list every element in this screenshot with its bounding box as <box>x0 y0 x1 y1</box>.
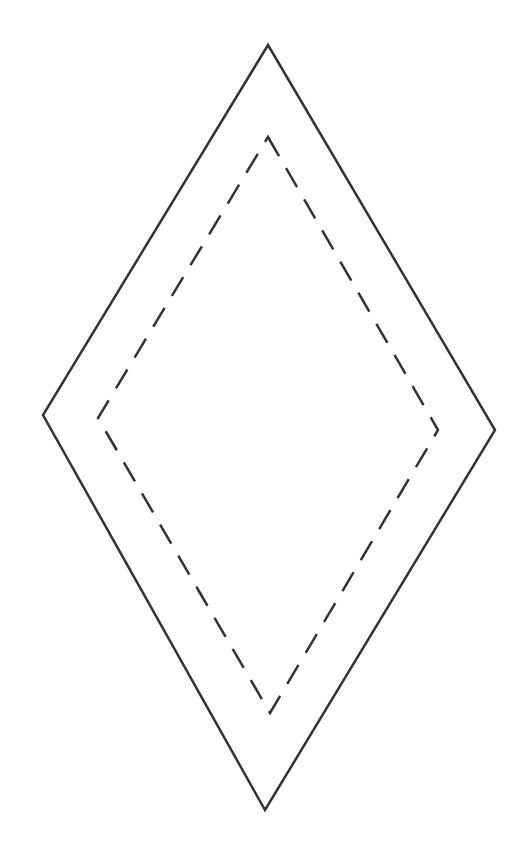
outer-diamond-solid <box>43 45 495 810</box>
inner-diamond-dashed <box>98 137 438 713</box>
diamond-diagram <box>0 0 528 856</box>
